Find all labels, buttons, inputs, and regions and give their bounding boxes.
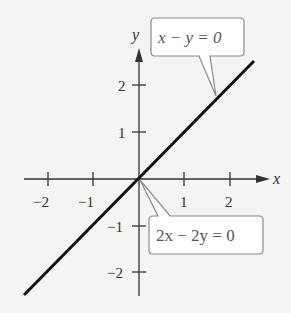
y-tick-label: 2: [118, 78, 126, 94]
x-tick-label: 1: [180, 194, 188, 210]
x-axis-arrow-icon: [256, 175, 270, 183]
x-tick-label: −1: [78, 194, 94, 210]
x-tick-label: −2: [33, 194, 49, 210]
y-tick-label: −1: [107, 219, 123, 235]
y-tick-label: −2: [107, 265, 123, 281]
x-axis-label: x: [272, 170, 280, 187]
y-axis-arrow-icon: [135, 48, 143, 62]
callout-top-text: x − y = 0: [157, 28, 222, 47]
callout-bottom-text: 2x − 2y = 0: [156, 226, 235, 245]
x-tick-label: 2: [225, 194, 233, 210]
y-tick-label: 1: [118, 125, 126, 141]
y-axis-label: y: [130, 26, 140, 44]
chart-canvas: −2 −1 1 2 2 1 −1 −2 x y x − y = 0 2x − 2…: [0, 0, 291, 313]
callout-bottom: 2x − 2y = 0: [140, 180, 263, 254]
